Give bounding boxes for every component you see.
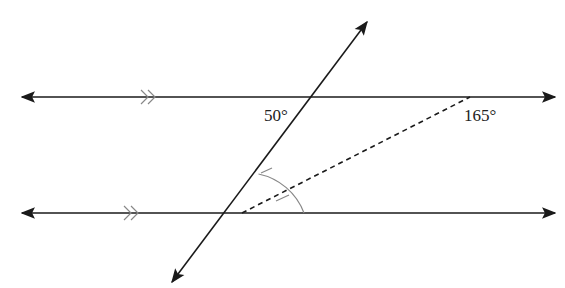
angle-label-165: 165° [464,107,496,124]
diagram-canvas: 50° 165° [0,0,565,288]
geometry-figure [0,0,565,288]
angle-label-50: 50° [264,107,288,124]
arc-tick-lower [276,195,289,201]
arc-tick-upper [261,168,272,173]
transversal-line [172,22,367,282]
angle-arc [259,174,305,213]
